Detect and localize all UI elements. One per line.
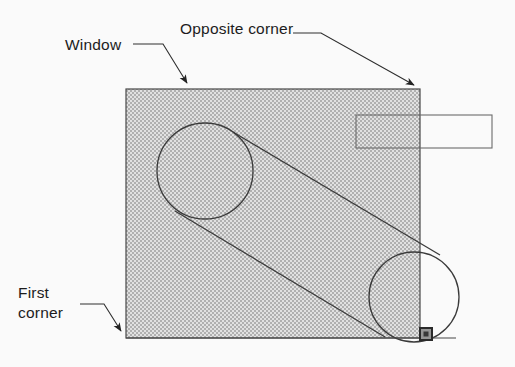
figure-canvas: Window Opposite corner First corner — [0, 0, 515, 367]
diagram-svg: Window Opposite corner First corner — [0, 0, 515, 367]
scan-tint-overlay — [0, 0, 515, 367]
